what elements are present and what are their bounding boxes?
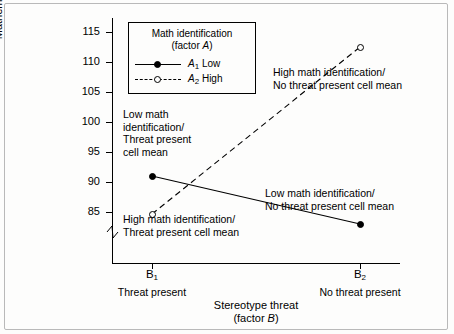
y-tick-label-110: 110 xyxy=(74,56,100,67)
annotation-low-threat-line1: Low math xyxy=(123,108,169,120)
legend-entry-a2: A2 High xyxy=(135,72,249,87)
annotation-low-nothreat-line1: Low math identification/ xyxy=(265,187,375,199)
annotation-high-threat: High math identification/ Threat present… xyxy=(123,213,283,238)
y-tick-label-90: 90 xyxy=(74,176,100,187)
annotation-high-nothreat: High math identification/ No threat pres… xyxy=(273,66,448,91)
annotation-low-threat-line3: Threat present xyxy=(123,133,191,145)
x-category-b1-name: Threat present xyxy=(92,286,212,298)
y-tick-100 xyxy=(106,122,112,123)
annotation-high-nothreat-line1: High math identification/ xyxy=(273,66,385,78)
legend-box: Math identification (factor A) A1 Low A2… xyxy=(128,22,256,94)
legend-key-open-circle-dashed-line xyxy=(135,74,181,85)
y-axis-title: Mathematics achievement test score xyxy=(0,0,4,60)
legend-key-filled-circle-solid-line xyxy=(135,59,181,70)
x-axis-line xyxy=(112,263,400,264)
legend-title-line1: Math identification xyxy=(152,28,233,39)
y-tick-95 xyxy=(106,152,112,153)
y-tick-label-105: 105 xyxy=(74,86,100,97)
legend-label-a1: A1 Low xyxy=(188,58,220,71)
x-category-b2: B2 No threat present xyxy=(300,268,420,298)
y-tick-115 xyxy=(106,32,112,33)
chart-root: 115 110 105 100 95 90 85 Mathematics ach… xyxy=(0,0,454,334)
x-axis-title-line2: (factor B) xyxy=(233,312,278,324)
legend-label-a2: A2 High xyxy=(188,73,222,86)
data-point-a1-b1 xyxy=(149,173,156,180)
x-category-b1-level: B1 xyxy=(146,268,158,280)
x-category-b2-level: B2 xyxy=(354,268,366,280)
annotation-low-nothreat: Low math identification/ No threat prese… xyxy=(265,187,445,212)
annotation-low-threat-line2: identification/ xyxy=(123,121,184,133)
legend-title: Math identification (factor A) xyxy=(135,28,249,52)
legend-entries: A1 Low A2 High xyxy=(135,57,249,87)
x-axis-title-line1: Stereotype threat xyxy=(214,299,298,311)
data-point-a2-b2 xyxy=(357,44,364,51)
y-tick-label-100: 100 xyxy=(74,116,100,127)
y-tick-110 xyxy=(106,62,112,63)
x-category-b1: B1 Threat present xyxy=(92,268,212,298)
annotation-low-threat: Low math identification/ Threat present … xyxy=(123,108,233,158)
x-axis-title: Stereotype threat (factor B) xyxy=(112,299,400,325)
legend-entry-a1: A1 Low xyxy=(135,57,249,72)
data-point-a1-b2 xyxy=(357,221,364,228)
x-category-b2-name: No threat present xyxy=(300,286,420,298)
y-tick-90 xyxy=(106,182,112,183)
annotation-low-threat-line4: cell mean xyxy=(123,146,168,158)
annotation-high-threat-line1: High math identification/ xyxy=(123,213,235,225)
y-tick-label-85: 85 xyxy=(74,206,100,217)
annotation-high-threat-line2: Threat present cell mean xyxy=(123,226,239,238)
annotation-low-nothreat-line2: No threat present cell mean xyxy=(265,200,394,212)
y-tick-label-115: 115 xyxy=(74,26,100,37)
y-axis-line xyxy=(112,18,113,263)
y-tick-85 xyxy=(106,212,112,213)
legend-title-line2: (factor A) xyxy=(171,40,212,51)
y-tick-105 xyxy=(106,92,112,93)
annotation-high-nothreat-line2: No threat present cell mean xyxy=(273,79,402,91)
y-tick-label-95: 95 xyxy=(74,146,100,157)
